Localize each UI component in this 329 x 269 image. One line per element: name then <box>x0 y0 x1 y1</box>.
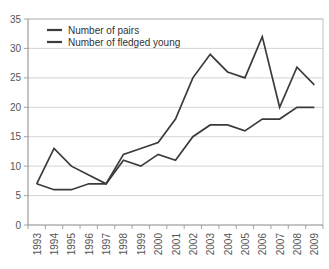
plot-background <box>28 19 323 225</box>
x-tick-label: 2004 <box>223 233 234 256</box>
y-tick-label: 0 <box>15 220 21 231</box>
x-tick-label: 2006 <box>257 233 268 256</box>
legend-label-number-of-pairs: Number of pairs <box>68 25 139 36</box>
y-tick-label: 30 <box>10 43 22 54</box>
y-tick-label: 10 <box>10 161 22 172</box>
y-tick-label: 20 <box>10 102 22 113</box>
x-tick-label: 2007 <box>275 233 286 256</box>
x-tick-label: 2001 <box>171 233 182 256</box>
y-tick-label: 15 <box>10 131 22 142</box>
y-tick-label: 35 <box>10 14 22 25</box>
x-tick-label: 1993 <box>32 233 43 256</box>
x-tick-label: 2005 <box>240 233 251 256</box>
chart-canvas: 35 30 25 20 15 10 5 0 199319941995199619… <box>0 0 329 269</box>
y-tick-marks <box>24 19 28 225</box>
x-tick-label: 2008 <box>292 233 303 256</box>
x-axis-labels: 1993199419951996199719981999200020012002… <box>32 233 321 256</box>
x-tick-marks <box>28 225 323 229</box>
x-tick-label: 2003 <box>205 233 216 256</box>
x-tick-label: 1996 <box>84 233 95 256</box>
x-tick-label: 2009 <box>309 233 320 256</box>
x-tick-label: 1995 <box>66 233 77 256</box>
y-axis-labels: 35 30 25 20 15 10 5 0 <box>10 14 22 231</box>
y-tick-label: 25 <box>10 72 22 83</box>
x-tick-label: 2000 <box>153 233 164 256</box>
y-tick-label: 5 <box>15 190 21 201</box>
x-tick-label: 2002 <box>188 233 199 256</box>
x-tick-label: 1998 <box>118 233 129 256</box>
legend-label-number-of-fledged-young: Number of fledged young <box>68 37 180 48</box>
x-tick-label: 1994 <box>49 233 60 256</box>
line-chart: 35 30 25 20 15 10 5 0 199319941995199619… <box>0 0 329 269</box>
x-tick-label: 1997 <box>101 233 112 256</box>
x-tick-label: 1999 <box>136 233 147 256</box>
